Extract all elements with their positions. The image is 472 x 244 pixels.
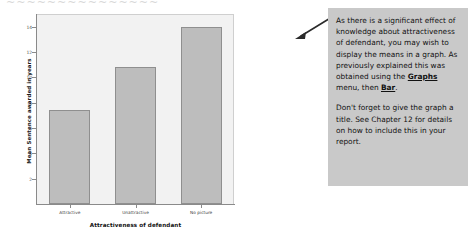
x-axis-ticks: AttractiveUnattractiveNo picture xyxy=(36,205,235,209)
y-axis-title: Mean Sentence awarded in years xyxy=(26,26,32,196)
bar xyxy=(115,67,156,204)
x-tick-mark xyxy=(136,205,137,208)
annotation-paragraph-2: Don't forget to give the graph a title. … xyxy=(336,102,462,147)
y-tick-mark xyxy=(32,52,36,53)
bar-chart-figure: 2468101214 Mean Sentence awarded in year… xyxy=(0,12,258,244)
menu-graphs-label: Graphs xyxy=(408,72,438,81)
menu-bar-label: Bar xyxy=(381,83,395,92)
y-tick-mark xyxy=(32,179,36,180)
x-tick-label: No picture xyxy=(190,210,212,215)
bar xyxy=(49,110,90,204)
bars-layer xyxy=(37,14,234,204)
x-tick-label: Unattractive xyxy=(122,210,149,215)
y-tick-mark xyxy=(32,153,36,154)
y-tick-mark xyxy=(32,128,36,129)
y-axis-ticks: 2468101214 xyxy=(36,14,37,204)
annotation-callout-box: As there is a significant effect of know… xyxy=(328,8,468,186)
y-tick-mark xyxy=(32,103,36,104)
annotation-text-1b: menu, then xyxy=(336,83,381,92)
annotation-text-1a: As there is a significant effect of know… xyxy=(336,16,457,81)
x-tick-mark xyxy=(201,205,202,208)
bar xyxy=(181,27,222,204)
y-tick-mark xyxy=(32,27,36,28)
y-tick-mark xyxy=(32,77,36,78)
x-tick-mark xyxy=(70,205,71,208)
x-axis-title: Attractiveness of defendant xyxy=(36,222,235,228)
x-tick-label: Attractive xyxy=(59,210,80,215)
annotation-text-1c: . xyxy=(395,83,397,92)
annotation-paragraph-1: As there is a significant effect of know… xyxy=(336,15,462,93)
cut-off-text-fragment: ~~~~~~~~~~~~~~~ xyxy=(6,0,236,10)
